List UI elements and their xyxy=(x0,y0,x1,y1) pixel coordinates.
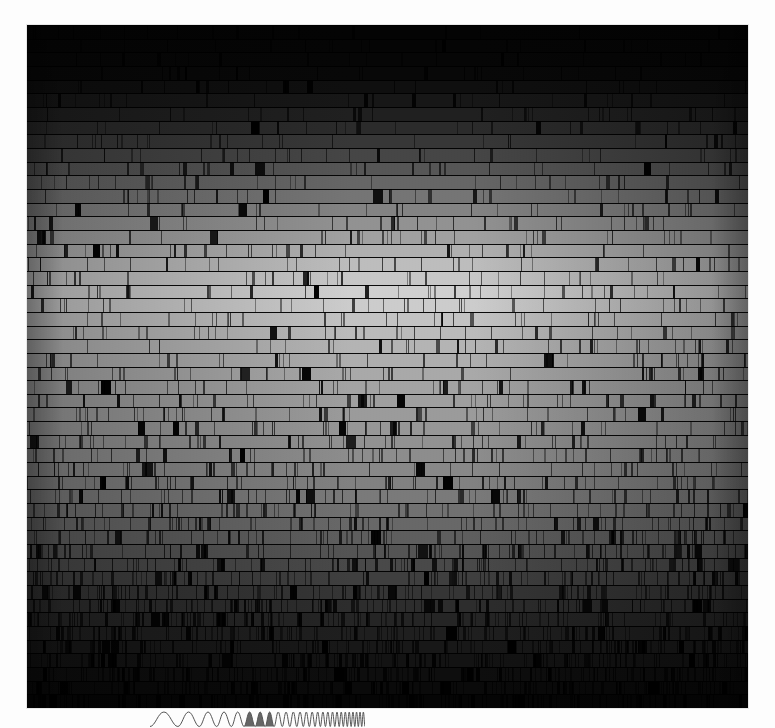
absorption-line xyxy=(213,612,214,626)
absorption-line xyxy=(150,653,151,667)
absorption-line xyxy=(358,612,359,626)
absorption-line xyxy=(635,653,636,667)
absorption-line xyxy=(609,626,610,640)
absorption-line xyxy=(345,244,346,258)
absorption-line xyxy=(716,462,717,476)
absorption-line xyxy=(294,462,296,476)
absorption-line xyxy=(743,612,744,626)
absorption-line xyxy=(666,175,669,189)
absorption-line xyxy=(423,694,424,708)
absorption-line xyxy=(468,626,469,640)
order-continuum xyxy=(27,435,748,449)
absorption-line xyxy=(573,448,574,462)
absorption-line xyxy=(235,558,236,572)
absorption-line xyxy=(87,407,88,421)
absorption-line xyxy=(533,694,535,708)
absorption-line xyxy=(261,599,263,613)
absorption-line xyxy=(694,544,695,558)
absorption-line xyxy=(523,66,524,80)
absorption-line xyxy=(688,489,690,503)
absorption-line xyxy=(482,585,483,599)
absorption-line xyxy=(497,476,498,490)
absorption-line xyxy=(246,503,247,517)
absorption-line xyxy=(432,681,433,695)
absorption-line xyxy=(270,339,271,353)
absorption-line xyxy=(137,626,138,640)
absorption-line xyxy=(476,599,477,613)
absorption-line xyxy=(197,599,198,613)
absorption-line xyxy=(414,462,415,476)
absorption-line xyxy=(147,558,148,572)
absorption-line xyxy=(702,339,703,353)
absorption-line xyxy=(35,448,37,462)
absorption-line xyxy=(276,571,277,585)
absorption-line xyxy=(475,489,476,503)
absorption-line xyxy=(683,367,685,381)
absorption-line xyxy=(246,681,248,695)
absorption-line xyxy=(409,271,410,285)
absorption-line xyxy=(388,667,389,681)
absorption-line xyxy=(154,462,155,476)
absorption-line xyxy=(343,435,344,449)
absorption-line xyxy=(712,626,713,640)
absorption-line xyxy=(381,653,382,667)
absorption-line xyxy=(62,640,63,654)
absorption-line xyxy=(123,367,124,381)
absorption-line xyxy=(272,640,273,654)
absorption-line xyxy=(481,517,483,531)
absorption-line xyxy=(550,626,551,640)
absorption-line xyxy=(36,544,41,558)
absorption-line xyxy=(231,285,232,299)
absorption-line xyxy=(508,394,509,408)
absorption-line xyxy=(522,640,523,654)
echelle-order xyxy=(27,244,748,258)
absorption-line xyxy=(636,530,638,544)
absorption-line xyxy=(85,530,86,544)
absorption-line xyxy=(606,175,610,189)
absorption-line xyxy=(173,667,175,681)
absorption-line xyxy=(253,585,255,599)
absorption-line xyxy=(379,694,380,708)
absorption-line xyxy=(68,558,70,572)
absorption-line xyxy=(526,489,527,503)
absorption-line xyxy=(527,558,528,572)
absorption-line xyxy=(57,640,58,654)
absorption-line xyxy=(76,52,77,66)
absorption-line xyxy=(606,667,607,681)
absorption-line xyxy=(68,585,69,599)
absorption-line xyxy=(418,544,428,558)
absorption-line xyxy=(36,435,37,449)
absorption-line xyxy=(543,530,544,544)
absorption-line xyxy=(187,189,189,203)
absorption-line xyxy=(724,517,725,531)
absorption-line xyxy=(615,503,617,517)
absorption-line xyxy=(278,612,280,626)
absorption-line xyxy=(246,271,247,285)
order-continuum xyxy=(27,558,748,572)
absorption-line xyxy=(745,544,748,558)
absorption-line xyxy=(674,230,675,244)
absorption-line xyxy=(119,367,121,381)
absorption-line xyxy=(254,421,258,435)
absorption-line xyxy=(660,612,661,626)
absorption-line xyxy=(192,640,193,654)
absorption-line xyxy=(60,694,61,708)
absorption-line xyxy=(296,626,297,640)
absorption-line xyxy=(383,367,384,381)
absorption-line xyxy=(476,667,480,681)
absorption-line xyxy=(423,353,424,367)
absorption-line xyxy=(484,558,485,572)
absorption-line xyxy=(654,667,656,681)
absorption-line xyxy=(662,544,663,558)
absorption-line xyxy=(266,367,267,381)
absorption-line xyxy=(125,640,127,654)
absorption-line xyxy=(656,257,657,271)
absorption-line xyxy=(407,558,408,572)
absorption-line xyxy=(415,640,418,654)
absorption-line xyxy=(305,558,306,572)
absorption-line xyxy=(510,134,511,148)
echelle-order xyxy=(27,107,748,121)
absorption-line xyxy=(246,462,247,476)
absorption-line xyxy=(575,476,578,490)
absorption-line xyxy=(453,585,455,599)
